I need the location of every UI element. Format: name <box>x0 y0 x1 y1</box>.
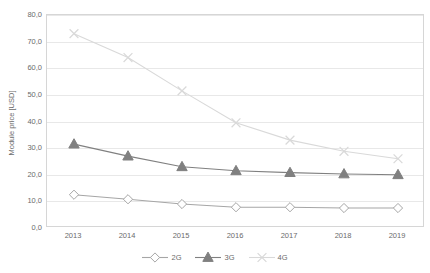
x-axis-tick-label: 2016 <box>227 231 244 240</box>
y-axis-tick-label: 0,0 <box>0 223 42 232</box>
y-axis-tick-label: 10,0 <box>0 196 42 205</box>
data-point-3G-2019 <box>393 169 403 178</box>
x-axis-tick-label: 2014 <box>119 231 136 240</box>
legend-item-2G[interactable]: 2G <box>142 252 181 263</box>
series-line-4G <box>74 34 398 159</box>
x-axis-tick-label: 2013 <box>65 231 82 240</box>
legend-marker-3G <box>195 252 221 263</box>
legend-item-4G[interactable]: 4G <box>249 252 288 263</box>
data-point-3G-2013 <box>69 139 79 148</box>
x-axis-tick-label: 2017 <box>281 231 298 240</box>
y-axis-tick-label: 60,0 <box>0 63 42 72</box>
y-axis-tick-label: 20,0 <box>0 169 42 178</box>
legend-marker-4G <box>249 252 275 263</box>
chart-legend: 2G3G4G <box>0 252 430 263</box>
y-axis-tick-label: 50,0 <box>0 89 42 98</box>
plot-area <box>46 14 424 227</box>
legend-label-2G: 2G <box>171 253 181 262</box>
legend-label-3G: 3G <box>224 253 234 262</box>
legend-label-4G: 4G <box>278 253 288 262</box>
legend-marker-2G <box>142 252 168 263</box>
data-point-2G-2014 <box>123 195 132 204</box>
x-axis-tick-label: 2019 <box>389 231 406 240</box>
data-point-4G-2014 <box>124 53 133 62</box>
y-axis-tick-label: 70,0 <box>0 36 42 45</box>
data-point-4G-2017 <box>286 136 295 145</box>
data-point-3G-2018 <box>339 169 349 178</box>
y-axis-tick-label: 80,0 <box>0 10 42 19</box>
data-point-4G-2016 <box>232 118 241 127</box>
x-axis-tick-label: 2018 <box>335 231 352 240</box>
y-axis-tick-label: 40,0 <box>0 116 42 125</box>
data-point-2G-2013 <box>69 190 78 199</box>
data-point-4G-2013 <box>70 29 79 38</box>
data-point-2G-2019 <box>393 203 402 212</box>
data-point-2G-2018 <box>339 203 348 212</box>
data-series-layer <box>47 15 425 228</box>
legend-item-3G[interactable]: 3G <box>195 252 234 263</box>
y-axis-tick-label: 30,0 <box>0 143 42 152</box>
data-point-2G-2016 <box>231 203 240 212</box>
x-axis-tick-label: 2015 <box>173 231 190 240</box>
data-point-2G-2015 <box>177 199 186 208</box>
data-point-3G-2017 <box>285 167 295 176</box>
chart-container: Module price [USD] 0,010,020,030,040,050… <box>0 0 430 273</box>
data-point-4G-2015 <box>178 86 187 95</box>
data-point-2G-2017 <box>285 203 294 212</box>
